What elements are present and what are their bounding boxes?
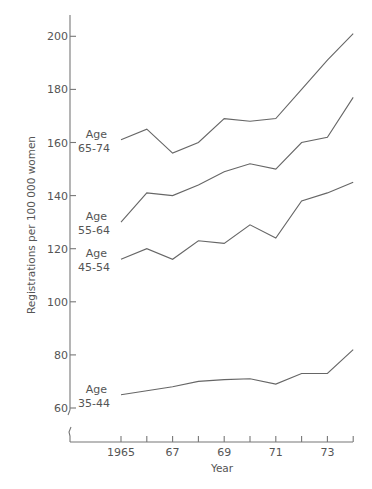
series-label: 35-44 xyxy=(78,397,110,410)
y-axis-title: Registrations per 100 000 women xyxy=(25,136,37,314)
y-tick-label: 120 xyxy=(47,243,68,256)
y-tick-label: 80 xyxy=(54,349,68,362)
y-tick-label: 200 xyxy=(47,30,68,43)
y-axis-ticks: 6080100120140160180200 xyxy=(47,30,76,415)
series-label: 55-64 xyxy=(78,224,110,237)
y-tick-label: 140 xyxy=(47,190,68,203)
series-label: 45-54 xyxy=(78,261,110,274)
x-axis-title: Year xyxy=(210,462,234,474)
x-tick-label: 67 xyxy=(166,446,180,459)
y-tick-label: 60 xyxy=(54,402,68,415)
y-tick-label: 100 xyxy=(47,296,68,309)
series-label: Age xyxy=(86,210,108,223)
series-line-age-55-64 xyxy=(121,97,353,222)
y-tick-label: 180 xyxy=(47,83,68,96)
series-lines xyxy=(121,34,353,395)
x-tick-label: 71 xyxy=(269,446,283,459)
y-tick-label: 160 xyxy=(47,137,68,150)
series-label: Age xyxy=(86,383,108,396)
series-label: Age xyxy=(86,128,108,141)
series-label: Age xyxy=(86,247,108,260)
x-tick-label: 1965 xyxy=(107,446,135,459)
x-tick-label: 69 xyxy=(217,446,231,459)
x-tick-label: 73 xyxy=(320,446,334,459)
y-axis-break-mark xyxy=(68,410,71,442)
x-axis-ticks: 196567697173 xyxy=(107,436,353,459)
series-labels: Age65-74Age55-64Age45-54Age35-44 xyxy=(78,128,110,410)
series-label: 65-74 xyxy=(78,142,110,155)
series-line-age-65-74 xyxy=(121,34,353,154)
series-line-age-35-44 xyxy=(121,350,353,395)
line-chart: 6080100120140160180200 196567697173 Age6… xyxy=(0,0,372,489)
